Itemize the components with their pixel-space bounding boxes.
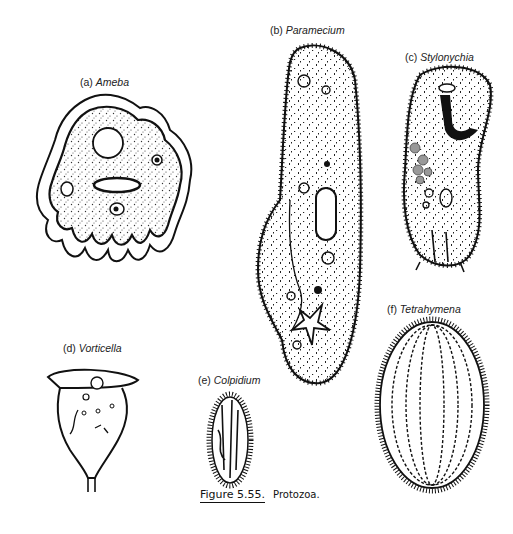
ameba-drawing — [37, 95, 191, 262]
paramecium-drawing — [258, 46, 361, 384]
panel-label-d: (d) Vorticella — [63, 342, 122, 354]
figure-title: Protozoa. — [273, 489, 320, 500]
stylonychia-drawing — [404, 67, 491, 272]
tetrahymena-drawing — [377, 319, 487, 491]
panel-label-c: (c) Stylonychia — [405, 51, 474, 63]
panel-label-f: (f) Tetrahymena — [387, 303, 461, 315]
figure-number: Figure 5.55. — [200, 488, 265, 503]
protozoa-illustrations — [0, 0, 513, 534]
figure-caption: Figure 5.55.Protozoa. — [200, 488, 320, 501]
vorticella-drawing — [48, 370, 138, 492]
panel-label-a: (a) Ameba — [80, 76, 129, 88]
panel-label-b: (b) Paramecium — [270, 24, 345, 36]
panel-label-e: (e) Colpidium — [198, 374, 260, 386]
colpidium-drawing — [209, 394, 251, 486]
